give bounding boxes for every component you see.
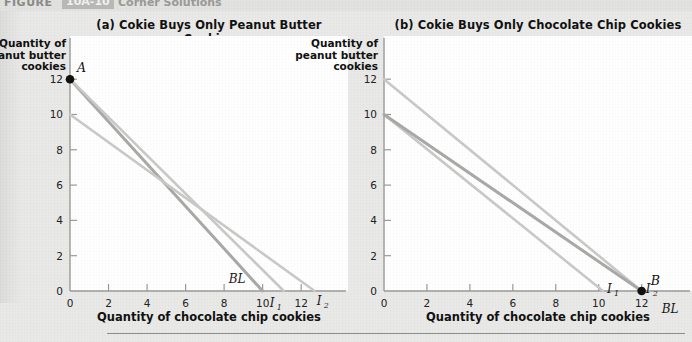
x-tick-label: 12 (635, 297, 648, 309)
figure-number: 10A-10 (62, 0, 114, 9)
figure-label: FIGURE (4, 0, 53, 9)
curve-i2 (384, 79, 642, 291)
y-tick-label: 12 (50, 73, 63, 85)
x-tick-label: 8 (221, 297, 228, 309)
x-tick-label: 6 (182, 297, 189, 309)
x-tick-label: 10 (592, 297, 605, 309)
y-tick-label: 2 (370, 250, 377, 262)
chart-panel-b: (b) Cokie Buys Only Chocolate Chip Cooki… (358, 14, 692, 304)
figure-header-strip: FIGURE 10A-10 Corner Solutions (0, 0, 692, 11)
x-tick-label: 12 (294, 297, 307, 309)
curve-i2 (70, 114, 315, 291)
x-tick-label: 4 (467, 297, 474, 309)
figure-caption: Corner Solutions (118, 0, 222, 9)
x-tick-label: 2 (424, 297, 431, 309)
curve-label-subscript-i1: 1 (614, 289, 619, 298)
y-tick-label: 0 (370, 285, 377, 297)
data-point-label-b: B (650, 273, 660, 288)
data-point-label-a: A (76, 60, 86, 75)
y-tick-label: 12 (364, 73, 377, 85)
x-tick-label: 0 (381, 297, 388, 309)
y-tick-label: 4 (56, 214, 63, 226)
x-tick-label: 0 (67, 297, 74, 309)
data-point-b (637, 287, 646, 296)
curve-label-bl: BL (228, 272, 246, 286)
y-tick-label: 6 (56, 179, 63, 191)
panel-a-x-axis-title: Quantity of chocolate chip cookies (70, 310, 348, 324)
panel-b-x-axis-title: Quantity of chocolate chip cookies (384, 310, 692, 324)
x-tick-label: 6 (509, 297, 516, 309)
x-tick-label: 2 (105, 297, 112, 309)
x-tick-label: 8 (552, 297, 559, 309)
y-tick-label: 0 (56, 285, 63, 297)
y-tick-label: 4 (370, 214, 377, 226)
y-tick-label: 10 (364, 108, 377, 120)
curve-bl (384, 114, 642, 291)
curve-label-subscript-i2: 2 (323, 301, 329, 310)
curve-label-i1: I (606, 282, 612, 296)
curve-label-subscript-i2: 2 (652, 289, 658, 298)
x-tick-label: 4 (144, 297, 151, 309)
curve-label-i1: I (269, 296, 275, 310)
bottom-divider-rule (107, 333, 685, 334)
y-tick-label: 6 (370, 179, 377, 191)
curve-label-i2: I (316, 294, 322, 308)
curve-i1 (70, 79, 284, 291)
curve-i1 (384, 114, 603, 291)
y-tick-label: 10 (50, 108, 63, 120)
x-tick-label: 10 (256, 297, 269, 309)
y-tick-label: 2 (56, 250, 63, 262)
data-point-a (66, 75, 75, 84)
y-tick-label: 8 (370, 144, 377, 156)
y-tick-label: 8 (56, 144, 63, 156)
panel-b-plot-svg: 024681012024681012I2I1BLB (358, 14, 692, 304)
